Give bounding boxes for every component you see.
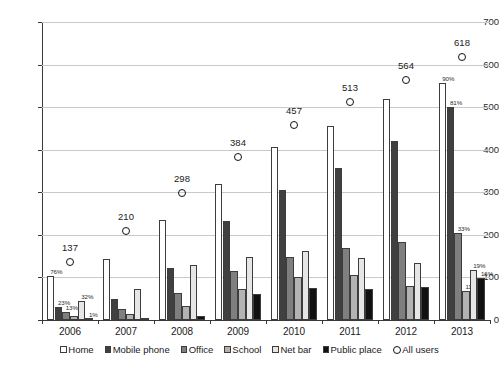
bar-net-bar[interactable]	[414, 263, 422, 320]
bar-school[interactable]	[462, 291, 470, 320]
x-axis-tick-label: 2011	[322, 326, 378, 337]
all-users-value-label: 457	[272, 106, 316, 116]
bar-group	[154, 22, 210, 320]
legend-item-net-bar[interactable]: Net bar	[272, 344, 311, 355]
chart-legend: HomeMobile phoneOfficeSchoolNet barPubli…	[0, 344, 499, 355]
x-axis-tick-mark	[98, 320, 99, 324]
bar-office[interactable]	[342, 248, 350, 320]
bar-group	[322, 22, 378, 320]
bar-net-bar[interactable]	[134, 289, 142, 320]
legend-item-home[interactable]: Home	[60, 344, 93, 355]
bar-public-place[interactable]	[309, 288, 317, 320]
bar-public-place[interactable]	[141, 318, 149, 320]
bar-public-place[interactable]	[253, 294, 261, 320]
bar-home[interactable]	[159, 220, 167, 320]
bar-school[interactable]	[350, 275, 358, 320]
bar-mobile-phone[interactable]	[391, 141, 399, 320]
all-users-marker[interactable]	[234, 153, 242, 161]
x-axis-tick-mark	[266, 320, 267, 324]
bar-office[interactable]	[286, 257, 294, 320]
legend-item-public-place[interactable]: Public place	[323, 344, 382, 355]
bar-public-place[interactable]	[421, 287, 429, 320]
bar-value-label: 16%	[481, 271, 493, 277]
bar-school[interactable]	[70, 316, 78, 320]
bar-home[interactable]	[103, 259, 111, 320]
bar-school[interactable]	[406, 286, 414, 320]
all-users-marker[interactable]	[402, 76, 410, 84]
bar-net-bar[interactable]	[78, 301, 86, 320]
legend-square-icon	[181, 346, 188, 353]
bar-school[interactable]	[182, 306, 190, 320]
all-users-value-label: 384	[216, 138, 260, 148]
legend-item-label: Net bar	[280, 344, 311, 355]
legend-item-office[interactable]: Office	[181, 344, 214, 355]
bar-office[interactable]	[454, 233, 462, 320]
bar-group: 76%23%13%32%1%	[42, 22, 98, 320]
bar-office[interactable]	[174, 293, 182, 320]
bar-net-bar[interactable]	[470, 270, 478, 320]
legend-item-school[interactable]: School	[224, 344, 261, 355]
all-users-value-label: 210	[104, 212, 148, 222]
all-users-marker[interactable]	[458, 53, 466, 61]
legend-item-all-users[interactable]: All users	[393, 344, 439, 355]
bar-home[interactable]	[47, 276, 55, 320]
bar-group-bars	[322, 22, 378, 320]
bar-office[interactable]	[230, 271, 238, 320]
bar-mobile-phone[interactable]	[279, 190, 287, 320]
bar-home[interactable]	[327, 126, 335, 320]
legend-item-label: All users	[402, 344, 438, 355]
bar-school[interactable]	[294, 277, 302, 320]
bar-net-bar[interactable]	[358, 258, 366, 320]
bar-value-label: 81%	[450, 100, 462, 106]
bar-value-label: 90%	[442, 76, 454, 82]
bar-net-bar[interactable]	[246, 257, 254, 320]
bar-public-place[interactable]	[365, 289, 373, 320]
x-axis-tick-mark	[210, 320, 211, 324]
bar-value-label: 33%	[458, 226, 470, 232]
legend-square-icon	[60, 346, 67, 353]
bar-mobile-phone[interactable]	[167, 268, 175, 320]
legend-square-icon	[105, 346, 112, 353]
bar-office[interactable]	[62, 312, 70, 320]
all-users-marker[interactable]	[66, 258, 74, 266]
bar-mobile-phone[interactable]	[111, 299, 119, 320]
bar-group-bars	[98, 22, 154, 320]
bar-home[interactable]	[271, 147, 279, 320]
all-users-value-label: 513	[328, 83, 372, 93]
plot-area: 76%23%13%32%1%13721029838445751356490%81…	[42, 22, 490, 320]
legend-square-icon	[272, 346, 279, 353]
x-axis-tick-mark	[434, 320, 435, 324]
x-axis-tick-label: 2010	[266, 326, 322, 337]
bar-public-place[interactable]	[477, 278, 485, 320]
bar-mobile-phone[interactable]	[223, 221, 231, 320]
bar-public-place[interactable]	[85, 318, 93, 320]
bar-office[interactable]	[398, 242, 406, 320]
x-axis-tick-mark	[322, 320, 323, 324]
bar-public-place[interactable]	[197, 316, 205, 320]
x-axis-tick-label: 2012	[378, 326, 434, 337]
bar-home[interactable]	[383, 99, 391, 320]
bar-group-bars: 90%81%33%11%19%16%	[434, 22, 490, 320]
bar-school[interactable]	[126, 314, 134, 320]
bar-mobile-phone[interactable]	[335, 168, 343, 320]
x-axis-tick-mark	[378, 320, 379, 324]
x-axis-tick-mark	[154, 320, 155, 324]
all-users-marker[interactable]	[346, 98, 354, 106]
bar-net-bar[interactable]	[190, 265, 198, 320]
bar-home[interactable]	[215, 184, 223, 320]
bar-mobile-phone[interactable]	[447, 107, 455, 320]
legend-item-mobile-phone[interactable]: Mobile phone	[105, 344, 170, 355]
bar-home[interactable]	[439, 83, 447, 320]
all-users-marker[interactable]	[122, 227, 130, 235]
bar-mobile-phone[interactable]	[55, 307, 63, 320]
bar-net-bar[interactable]	[302, 251, 310, 320]
bar-group-bars	[154, 22, 210, 320]
bar-school[interactable]	[238, 289, 246, 320]
x-axis-tick-mark	[42, 320, 43, 324]
bar-group	[210, 22, 266, 320]
x-axis-tick-mark	[490, 320, 491, 324]
bar-group-bars: 76%23%13%32%1%	[42, 22, 98, 320]
bar-office[interactable]	[118, 309, 126, 320]
bar-group	[266, 22, 322, 320]
bar-group: 90%81%33%11%19%16%	[434, 22, 490, 320]
